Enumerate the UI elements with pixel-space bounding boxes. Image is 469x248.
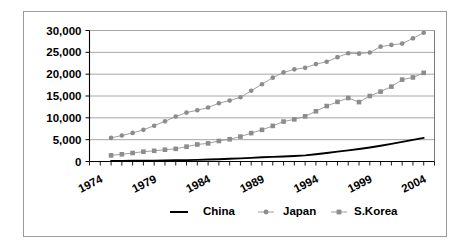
data-point (260, 128, 265, 133)
data-point (270, 124, 275, 129)
data-point (292, 117, 297, 122)
data-point (195, 108, 200, 113)
data-point (314, 62, 319, 67)
data-point (389, 43, 394, 48)
data-point (120, 133, 125, 138)
data-point (120, 152, 125, 157)
gridlines (90, 31, 435, 162)
data-point (206, 105, 211, 110)
data-point (292, 67, 297, 72)
y-axis-label: 30,000 (46, 25, 81, 37)
data-point (421, 71, 426, 76)
data-point (357, 100, 362, 105)
data-point (335, 55, 340, 60)
legend-label-china: China (203, 205, 236, 217)
data-point (249, 88, 254, 93)
series-line-skorea (111, 73, 424, 156)
data-point (195, 142, 200, 147)
series-china (111, 138, 424, 161)
data-point (109, 136, 114, 141)
data-point (163, 147, 168, 152)
data-point (368, 94, 373, 99)
data-point (163, 119, 168, 124)
data-point (303, 114, 308, 119)
data-point (368, 50, 373, 55)
x-axis-label: 1994 (292, 172, 321, 195)
legend-marker-square (337, 210, 342, 215)
data-point (130, 131, 135, 136)
data-point (400, 77, 405, 82)
data-point (411, 75, 416, 80)
data-point (357, 51, 362, 56)
data-point (206, 141, 211, 146)
x-axis-label: 1979 (130, 173, 158, 195)
y-axis-label: 5,000 (53, 134, 82, 146)
data-point (270, 75, 275, 80)
y-axis-label: 20,000 (46, 68, 81, 80)
x-axis-label: 1999 (346, 173, 374, 195)
data-point (335, 100, 340, 105)
legend-marker-circle (264, 210, 269, 215)
data-point (303, 66, 308, 71)
data-point (314, 109, 319, 114)
data-point (173, 147, 178, 152)
data-point (217, 139, 222, 144)
data-point (227, 137, 232, 142)
data-point (152, 149, 157, 154)
x-axis-label: 1974 (76, 172, 105, 195)
chart-legend: ChinaJapanS.Korea (170, 205, 398, 217)
data-point (346, 96, 351, 101)
data-point (141, 149, 146, 154)
data-point (378, 89, 383, 94)
data-point (249, 131, 254, 136)
data-point (109, 153, 114, 158)
data-point (130, 151, 135, 156)
series-line-china (111, 138, 424, 161)
y-axis-label: 15,000 (46, 90, 81, 102)
x-axis: 1974197919841989199419992004 (76, 162, 434, 195)
series-line-japan (111, 33, 424, 138)
data-point (141, 128, 146, 133)
data-point (411, 36, 416, 41)
data-point (227, 98, 232, 103)
data-point (389, 84, 394, 89)
x-axis-label: 1989 (238, 173, 266, 195)
data-point (281, 119, 286, 124)
data-point (184, 110, 189, 115)
x-axis-label: 1984 (184, 172, 213, 195)
x-axis-label: 2004 (400, 172, 429, 195)
legend-label-skorea: S.Korea (354, 205, 398, 217)
data-point (238, 134, 243, 139)
line-chart: 05,00010,00015,00020,00025,00030,0001974… (0, 0, 469, 248)
y-axis: 05,00010,00015,00020,00025,00030,000 (46, 25, 89, 168)
data-point (238, 95, 243, 100)
data-point (173, 114, 178, 119)
data-point (378, 44, 383, 49)
chart-svg: 05,00010,00015,00020,00025,00030,0001974… (0, 0, 469, 248)
data-point (346, 51, 351, 56)
data-point (421, 30, 426, 35)
data-point (281, 70, 286, 75)
series-skorea (109, 71, 426, 158)
data-point (152, 123, 157, 128)
y-axis-label: 0 (75, 156, 81, 168)
y-axis-label: 10,000 (46, 112, 81, 124)
data-point (260, 82, 265, 87)
legend-label-japan: Japan (283, 205, 316, 217)
y-axis-label: 25,000 (46, 46, 81, 58)
data-point (217, 101, 222, 106)
series-japan (109, 30, 426, 140)
data-point (324, 104, 329, 109)
data-point (324, 59, 329, 64)
data-point (184, 144, 189, 149)
data-point (400, 41, 405, 46)
